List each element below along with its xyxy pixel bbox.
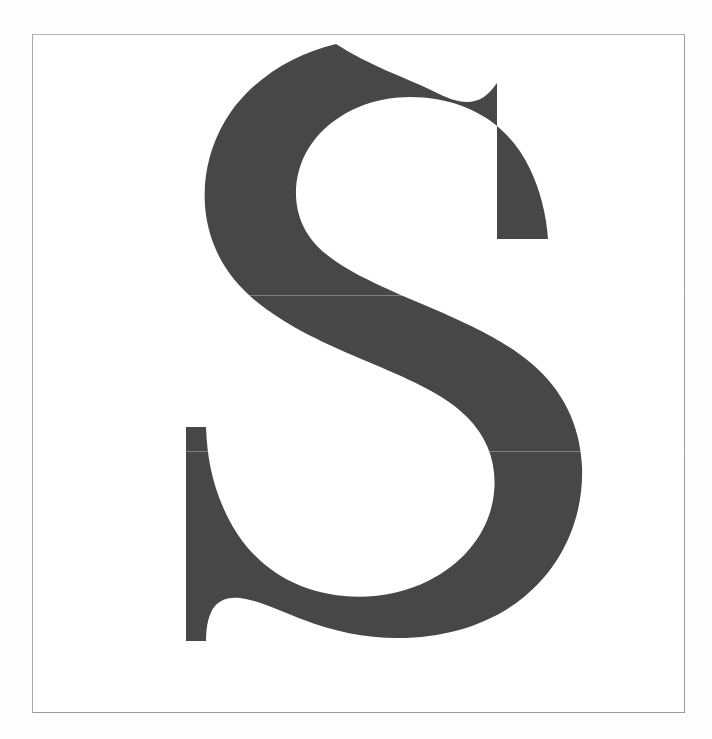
glyph-area	[33, 35, 686, 714]
specimen-plate-frame	[32, 34, 685, 713]
letter-s-glyph	[33, 35, 686, 714]
letter-s-path	[186, 44, 582, 641]
specimen-canvas: S	[0, 0, 712, 739]
